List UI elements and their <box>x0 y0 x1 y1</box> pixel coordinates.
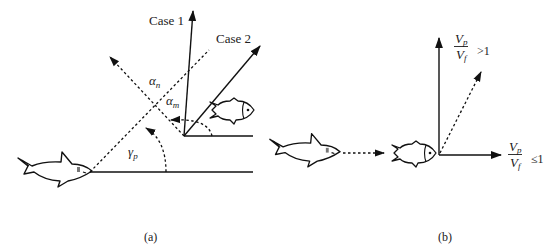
gamma-p-subscript: p <box>133 151 138 161</box>
ratio-right-comparison: ≤1 <box>531 152 544 167</box>
ratio-upper-fraction: Vp Vf <box>454 32 468 61</box>
alpha-n-label: αn <box>149 74 160 87</box>
caption-a: (a) <box>144 230 157 245</box>
ratio-upper-comparison: >1 <box>477 44 490 59</box>
ratio-right-denominator: Vf <box>510 155 520 169</box>
alpha-m-label: αm <box>166 94 179 107</box>
alpha-m-symbol: α <box>166 93 173 108</box>
ratio-upper-numerator: Vp <box>454 32 468 47</box>
ratio-upper-denominator: Vf <box>456 47 466 61</box>
caption-b: (b) <box>438 230 452 245</box>
ratio-right-numerator: Vp <box>508 140 522 155</box>
gamma-p-arc <box>146 128 166 172</box>
alpha-n-symbol: α <box>149 73 156 88</box>
prey-fish-icon <box>392 141 436 167</box>
prey-fish-icon <box>210 98 254 124</box>
gamma-p-label: γp <box>128 145 138 158</box>
diagonal-dashed-arrow <box>440 72 481 153</box>
alpha-n-subscript: n <box>156 80 161 90</box>
case1-label: Case 1 <box>149 14 184 27</box>
case2-velocity-arrow <box>184 46 260 136</box>
predator-shark-icon <box>270 134 340 167</box>
predator-shark-icon <box>18 152 92 187</box>
alpha-m-subscript: m <box>173 100 180 110</box>
line-of-sight-dashed <box>90 50 209 172</box>
ratio-right-fraction: Vp Vf <box>508 140 522 169</box>
case2-label: Case 2 <box>216 32 251 45</box>
figure-canvas <box>0 0 555 250</box>
